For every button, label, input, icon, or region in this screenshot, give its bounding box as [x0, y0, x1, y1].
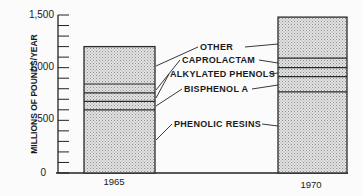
bar-1970: [278, 17, 347, 173]
legend-caprolactam: CAPROLACTAM: [182, 55, 255, 65]
y-tick-500: 500: [37, 113, 54, 124]
y-tick-0: 0: [40, 167, 46, 178]
y-tick-1000: 1,000: [29, 61, 54, 72]
legend-bisphenol-a: BISPHENOL A: [184, 84, 249, 94]
legend-alkylated-phenols: ALKYLATED PHENOLS: [170, 69, 275, 79]
y-tick-1500: 1,500: [29, 9, 54, 20]
y-axis-label: MILLIONS OF POUNDS/YEAR: [29, 34, 39, 153]
category-label-1970: 1970: [300, 179, 321, 190]
chart: MILLIONS OF POUNDS/YEAR 1,500 1,000 500 …: [0, 0, 363, 196]
category-label-1965: 1965: [103, 176, 124, 187]
bars: [84, 17, 347, 173]
legend-phenolic-resins: PHENOLIC RESINS: [174, 119, 261, 129]
legend-other: OTHER: [200, 42, 233, 52]
legend: OTHER CAPROLACTAM ALKYLATED PHENOLS BISP…: [156, 42, 278, 140]
bar-1965: [84, 47, 155, 173]
